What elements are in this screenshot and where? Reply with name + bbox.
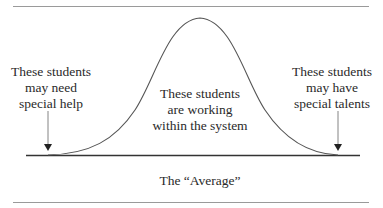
left-label-line: These students — [8, 64, 94, 80]
center-label-line: These students — [145, 86, 255, 102]
left-label-line: special help — [8, 96, 94, 112]
left-label: These students may need special help — [8, 64, 94, 112]
right-label-line: may have — [286, 80, 378, 96]
left-label-line: may need — [8, 80, 94, 96]
center-label: These students are working within the sy… — [145, 86, 255, 134]
right-label-line: These students — [286, 64, 378, 80]
right-label: These students may have special talents — [286, 64, 378, 112]
center-label-line: within the system — [145, 118, 255, 134]
center-label-line: are working — [145, 102, 255, 118]
right-arrow-head-icon — [334, 144, 342, 151]
right-label-line: special talents — [286, 96, 378, 112]
axis-label: The “Average” — [140, 173, 260, 189]
left-arrow-head-icon — [44, 144, 52, 151]
bottom-rule — [13, 202, 369, 203]
